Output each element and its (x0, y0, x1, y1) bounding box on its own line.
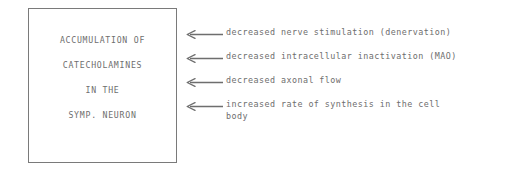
arrow-left-icon (186, 30, 223, 39)
concept-box: ACCUMULATION OF CATECHOLAMINES IN THE SY… (28, 8, 177, 163)
figure-canvas: ACCUMULATION OF CATECHOLAMINES IN THE SY… (0, 0, 512, 172)
annotation-list: decreased nerve stimulation (denervation… (186, 26, 512, 122)
concept-box-line: SYMP. NEURON (29, 103, 176, 128)
arrow-left-icon (186, 102, 223, 111)
annotation-label: increased rate of synthesis in the cell (226, 98, 440, 110)
annotation-label: decreased axonal flow (226, 74, 341, 86)
annotation-row: decreased intracellular inactivation (MA… (186, 50, 512, 74)
annotation-label: decreased intracellular inactivation (MA… (226, 50, 457, 62)
annotation-row: increased rate of synthesis in the cell … (186, 98, 512, 122)
annotation-label-continuation: body (226, 110, 248, 122)
annotation-row: decreased nerve stimulation (denervation… (186, 26, 512, 50)
concept-box-line: CATECHOLAMINES (29, 53, 176, 78)
concept-box-line: ACCUMULATION OF (29, 28, 176, 53)
annotation-row: decreased axonal flow (186, 74, 512, 98)
concept-box-text: ACCUMULATION OF CATECHOLAMINES IN THE SY… (29, 28, 176, 128)
arrow-left-icon (186, 78, 223, 87)
annotation-label: decreased nerve stimulation (denervation… (226, 26, 451, 38)
arrow-left-icon (186, 54, 223, 63)
concept-box-line: IN THE (29, 78, 176, 103)
